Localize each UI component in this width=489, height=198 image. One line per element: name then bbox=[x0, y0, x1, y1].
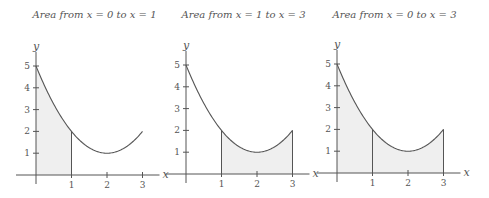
chart-plot: 12312345xy bbox=[0, 0, 489, 198]
x-tick-label: 1 bbox=[370, 178, 376, 188]
y-tick-label: 1 bbox=[325, 146, 331, 156]
x-tick-label: 2 bbox=[405, 178, 411, 188]
y-tick-label: 5 bbox=[325, 59, 331, 69]
x-axis-label: x bbox=[464, 166, 471, 179]
y-tick-label: 4 bbox=[325, 81, 331, 91]
y-tick-label: 3 bbox=[325, 103, 331, 113]
chart-panel-0-to-3: Area from x = 0 to x = 3 12312345xy bbox=[0, 0, 163, 198]
y-axis-label: y bbox=[333, 38, 341, 51]
x-tick-label: 3 bbox=[441, 178, 447, 188]
shaded-area bbox=[337, 64, 444, 173]
y-tick-label: 2 bbox=[325, 124, 331, 134]
